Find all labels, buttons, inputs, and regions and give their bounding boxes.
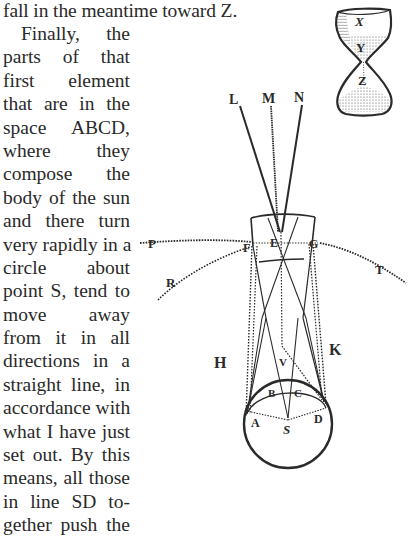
- arc-bc: [248, 393, 326, 412]
- label-k: K: [329, 341, 342, 358]
- curve-p: [140, 240, 252, 243]
- hourglass-label-z: Z: [358, 73, 367, 88]
- label-h: H: [214, 354, 227, 371]
- text-line: gether push the: [3, 513, 130, 536]
- label-p: P: [148, 236, 156, 251]
- tube-top-arc: [251, 214, 315, 218]
- label-t: T: [375, 262, 384, 277]
- hourglass-figure: X Y Z: [336, 9, 391, 116]
- label-d: D: [314, 412, 323, 426]
- hourglass-label-x: X: [354, 14, 364, 29]
- label-b: B: [268, 387, 276, 399]
- curve-t: [320, 243, 406, 283]
- label-l: L: [229, 92, 238, 107]
- label-f: F: [243, 241, 250, 255]
- label-v: V: [279, 356, 287, 368]
- label-s: S: [283, 422, 290, 437]
- label-r: R: [166, 275, 176, 290]
- text-line: in line SD to-: [3, 490, 130, 513]
- sun-diagram: [140, 105, 406, 468]
- hourglass-bottom-sand: [338, 86, 391, 112]
- ray-n: [282, 105, 302, 232]
- label-e: E: [270, 236, 278, 250]
- label-c: C: [294, 387, 302, 399]
- curve-r: [158, 247, 250, 300]
- label-n: N: [294, 90, 304, 105]
- label-m: M: [262, 91, 275, 106]
- hourglass-label-y: Y: [356, 40, 366, 55]
- label-a: A: [251, 416, 260, 430]
- label-g: G: [309, 237, 318, 251]
